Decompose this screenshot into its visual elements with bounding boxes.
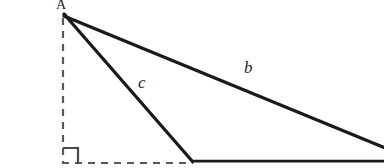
side-label-b: b: [244, 59, 253, 76]
diagram-canvas: A c b: [0, 0, 384, 168]
side-b-line: [64, 16, 384, 148]
vertex-label-a: A: [56, 0, 66, 12]
triangle-diagram: [0, 0, 384, 168]
side-c-line: [64, 14, 193, 162]
right-angle-mark: [63, 148, 78, 163]
side-label-c: c: [138, 74, 146, 91]
apex-vertex-point: [63, 13, 67, 17]
